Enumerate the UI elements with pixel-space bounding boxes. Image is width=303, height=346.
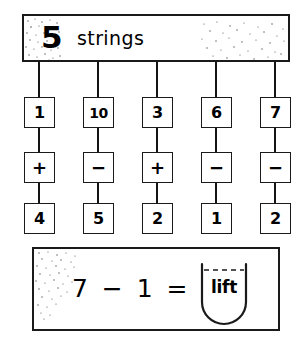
connector-line	[274, 128, 276, 153]
worksheet-canvas: 5 strings 1 10 3 6 7 + − + − − 4 5 2 1 2	[0, 0, 303, 346]
string-top-number[interactable]: 1	[24, 97, 55, 128]
string-operator[interactable]: −	[83, 152, 114, 183]
connector-line	[97, 183, 99, 205]
connector-line	[274, 62, 276, 98]
connector-line	[97, 128, 99, 153]
equation-expression: 7 − 1 =	[72, 276, 191, 301]
string-bottom-number[interactable]: 4	[24, 203, 55, 234]
connector-line	[38, 183, 40, 205]
string-count: 5	[41, 22, 62, 53]
equation-panel: 7 − 1 = lift	[32, 247, 280, 331]
connector-line	[215, 62, 217, 98]
connector-line	[156, 183, 158, 205]
string-top-number[interactable]: 6	[201, 97, 232, 128]
connector-line	[38, 62, 40, 98]
lift-flap-label: lift	[200, 279, 248, 296]
string-bottom-number[interactable]: 2	[142, 203, 173, 234]
connector-line	[38, 128, 40, 153]
banner-label: strings	[77, 29, 144, 48]
lift-flap-icon[interactable]: lift	[200, 262, 248, 326]
string-top-number[interactable]: 7	[260, 97, 291, 128]
string-top-number[interactable]: 10	[83, 97, 114, 128]
connector-line	[274, 183, 276, 205]
string-top-number[interactable]: 3	[142, 97, 173, 128]
speckle-texture-icon	[192, 18, 290, 62]
connector-line	[215, 183, 217, 205]
string-operator[interactable]: −	[260, 152, 291, 183]
connector-line	[156, 128, 158, 153]
connector-line	[215, 128, 217, 153]
string-operator[interactable]: +	[142, 152, 173, 183]
connector-line	[156, 62, 158, 98]
string-bottom-number[interactable]: 1	[201, 203, 232, 234]
connector-line	[97, 62, 99, 98]
header-banner: 5 strings	[22, 14, 290, 62]
string-operator[interactable]: −	[201, 152, 232, 183]
string-bottom-number[interactable]: 5	[83, 203, 114, 234]
string-bottom-number[interactable]: 2	[260, 203, 291, 234]
string-operator[interactable]: +	[24, 152, 55, 183]
